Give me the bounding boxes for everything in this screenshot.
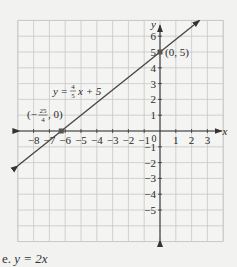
- caption-text: y = 2x: [14, 251, 47, 266]
- x-axis-label: x: [221, 125, 227, 137]
- svg-text:−5: −5: [75, 134, 87, 146]
- svg-text:−5: −5: [144, 204, 156, 216]
- svg-text:3: 3: [151, 78, 157, 90]
- svg-text:x + 5: x + 5: [77, 85, 102, 97]
- svg-text:, 0): , 0): [48, 108, 63, 121]
- svg-text:5: 5: [71, 92, 75, 100]
- svg-text:(−: (−: [27, 108, 37, 121]
- svg-text:3: 3: [205, 134, 211, 146]
- svg-text:1: 1: [173, 134, 179, 146]
- svg-text:−3: −3: [107, 134, 119, 146]
- point-marker: [158, 50, 163, 55]
- svg-text:25: 25: [40, 107, 48, 115]
- caption: e. y = 2x: [2, 251, 48, 267]
- svg-text:−2: −2: [144, 157, 156, 169]
- svg-text:−8: −8: [28, 134, 40, 146]
- svg-text:2: 2: [189, 134, 195, 146]
- svg-text:y: y: [52, 85, 58, 97]
- point-label-0-5: (0, 5): [165, 46, 189, 59]
- caption-prefix: e.: [2, 251, 11, 266]
- svg-text:4: 4: [71, 83, 75, 91]
- origin-label: 0: [152, 133, 157, 144]
- svg-text:−4: −4: [144, 188, 156, 200]
- svg-text:6: 6: [151, 30, 157, 42]
- svg-text:−3: −3: [144, 172, 156, 184]
- svg-text:4: 4: [151, 62, 157, 74]
- svg-text:−2: −2: [123, 134, 135, 146]
- svg-text:2: 2: [151, 93, 157, 105]
- svg-text:−6: −6: [59, 134, 71, 146]
- y-axis-label: y: [150, 18, 156, 30]
- svg-text:4: 4: [41, 116, 45, 124]
- svg-text:−4: −4: [91, 134, 103, 146]
- svg-text:1: 1: [151, 109, 157, 121]
- svg-text:=: =: [61, 85, 67, 97]
- point-marker: [59, 129, 64, 134]
